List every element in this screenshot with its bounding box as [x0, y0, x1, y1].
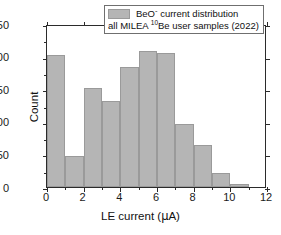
y-tick-major-right	[265, 124, 270, 125]
legend-label-line2-superscript: 10	[151, 19, 158, 26]
x-tick-label: 12	[251, 192, 281, 203]
y-tick-major	[43, 91, 48, 92]
y-tick-label: 150	[0, 85, 9, 96]
y-tick-major-right	[265, 91, 270, 92]
x-tick-label: 4	[104, 192, 134, 203]
x-tick-major-top	[84, 22, 85, 27]
y-tick-minor	[44, 173, 47, 174]
x-tick-label: 6	[141, 192, 171, 203]
legend-label-line2-post: Be user samples (2022)	[158, 20, 259, 31]
y-tick-minor	[44, 42, 47, 43]
x-tick-label: 10	[214, 192, 244, 203]
y-tick-minor	[44, 108, 47, 109]
histogram-bar	[157, 53, 175, 187]
x-tick-minor	[102, 187, 103, 190]
y-tick-major-right	[265, 156, 270, 157]
legend-label-line1: BeO- current distribution	[136, 8, 238, 19]
legend-label-line1-pre: BeO	[136, 8, 155, 19]
histogram-bar	[194, 145, 212, 187]
plot-area	[46, 25, 266, 188]
histogram-bar	[65, 156, 83, 187]
y-tick-label: 200	[0, 52, 9, 63]
x-tick-major-top	[47, 22, 48, 27]
x-tick-major-top	[267, 22, 268, 27]
y-tick-major	[43, 26, 48, 27]
y-tick-minor	[44, 75, 47, 76]
legend-color-swatch	[108, 9, 130, 19]
x-tick-label: 0	[31, 192, 61, 203]
legend-entry-beo-current: BeO- current distribution	[108, 8, 259, 19]
x-tick-minor	[175, 187, 176, 190]
y-tick-label: 50	[0, 150, 9, 161]
bars-layer	[47, 26, 265, 187]
x-axis-title-suffix: A)	[168, 210, 180, 222]
x-axis-title-text: LE current (	[101, 210, 161, 222]
legend-label-line1-post: current distribution	[158, 8, 239, 19]
legend-entry-sample-set: all MILEA 10Be user samples (2022)	[108, 20, 259, 31]
histogram-bar	[47, 55, 65, 187]
y-axis-title: Count	[28, 91, 40, 122]
x-tick-minor	[249, 187, 250, 190]
y-tick-label: 0	[0, 183, 9, 194]
x-tick-label: 8	[178, 192, 208, 203]
x-tick-minor	[212, 187, 213, 190]
histogram-bar	[139, 51, 157, 187]
legend-label-line2-pre: all MILEA	[108, 20, 151, 31]
histogram-bar	[230, 184, 248, 187]
histogram-bar	[102, 101, 120, 187]
y-tick-label: 100	[0, 117, 9, 128]
y-tick-label: 250	[0, 20, 9, 31]
histogram-bar	[120, 67, 138, 187]
y-tick-major-right	[265, 59, 270, 60]
x-axis-title: LE current (µA)	[0, 209, 281, 223]
y-tick-major	[43, 156, 48, 157]
x-tick-label: 2	[68, 192, 98, 203]
y-tick-major	[43, 124, 48, 125]
histogram-bar	[84, 88, 102, 187]
histogram-bar	[175, 124, 193, 187]
y-tick-major-right	[265, 26, 270, 27]
legend-box: BeO- current distribution all MILEA 10Be…	[104, 5, 264, 34]
y-tick-major	[43, 59, 48, 60]
histogram-bar	[212, 173, 230, 187]
x-tick-minor	[65, 187, 66, 190]
legend-label-line2: all MILEA 10Be user samples (2022)	[108, 20, 259, 31]
x-tick-minor	[139, 187, 140, 190]
histogram-figure: Count 050100150200250 024681012 LE curre…	[0, 0, 281, 235]
y-tick-minor	[44, 140, 47, 141]
